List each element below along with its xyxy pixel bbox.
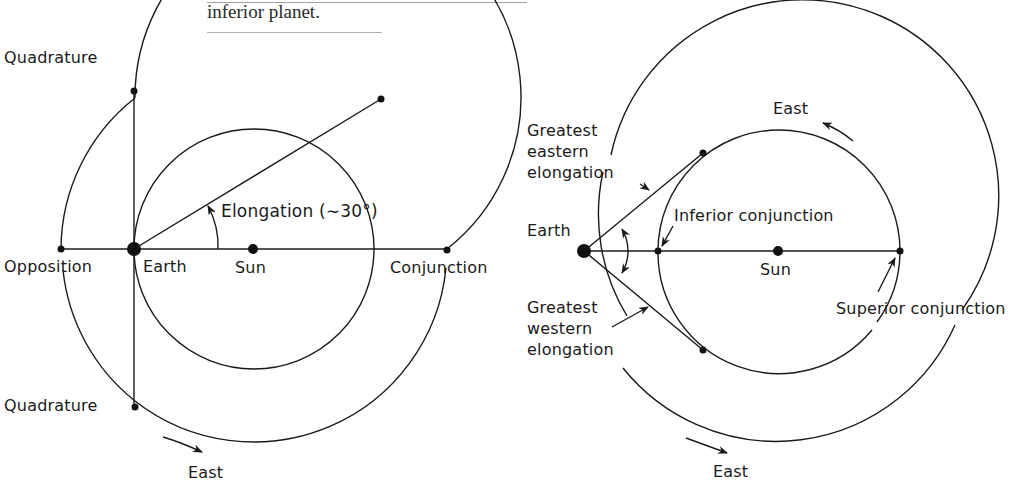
elongation-double-arc-up [622,229,628,251]
eastern-elongation-dot [700,150,707,157]
label-opposition: Opposition [4,257,92,277]
inferior-conjunction-pointer [662,226,673,246]
elongation-planet-dot [378,96,385,103]
label-greatest-eastern-elongation: Greatest eastern elongation [527,120,614,183]
earth-dot [127,242,141,256]
western-elongation-pointer [612,307,648,327]
label-conjunction: Conjunction [390,258,487,278]
sun-dot [248,244,258,254]
orbit-diagrams [0,0,1027,485]
label-inferior-conjunction: Inferior conjunction [674,206,834,226]
earth-orbit-right-top [611,0,999,310]
label-quadrature-bottom: Quadrature [4,396,98,416]
quadrature-bottom-dot [132,404,139,411]
western-elongation-dot [700,347,707,354]
earth-dot-right [577,244,591,258]
conjunction-dot [444,247,451,254]
superior-conjunction-dot [897,248,904,255]
earth-orbit-right-left [598,172,627,316]
outer-orbit-left-upper [61,98,135,249]
label-superior-conjunction: Superior conjunction [836,299,1006,319]
planet-orbit-top [658,130,900,251]
label-quadrature-top: Quadrature [4,48,98,68]
superior-conjunction-pointer [878,258,895,292]
inferior-planet-diagram [584,0,999,453]
quadrature-top-dot [131,88,138,95]
inferior-conjunction-dot [655,248,662,255]
outer-orbit-left-lower [63,270,135,401]
east-arrow-outer [686,438,727,453]
elongation-arc [208,206,218,249]
label-elongation: Elongation (∼30°) [221,201,378,221]
label-sun: Sun [235,258,266,278]
elongation-line [134,99,381,249]
outer-orbit-lower [135,268,446,442]
label-east-left: East [188,463,223,483]
eastern-elongation-pointer [640,184,649,190]
label-east-inner: East [773,99,808,119]
east-arrow-left [163,437,202,452]
earth-orbit-right-bottom [623,325,955,441]
label-east-outer: East [713,462,748,482]
label-greatest-western-elongation: Greatest western elongation [527,297,614,360]
east-arrow-inner [823,123,853,141]
label-earth-right: Earth [527,221,571,241]
label-earth: Earth [143,257,187,277]
elongation-double-arc-down [622,251,628,273]
superior-planet-diagram [61,0,521,452]
figure: inferior planet. [0,0,1027,485]
sun-dot-right [773,246,783,256]
label-sun-right: Sun [760,260,791,280]
opposition-dot [58,246,65,253]
